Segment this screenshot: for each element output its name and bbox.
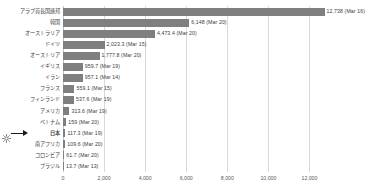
bar-value-label: 117.3 (Mar 19) <box>67 131 102 136</box>
y-axis-category-label: アメリカ <box>40 106 60 116</box>
x-axis-tick-labels: 02,0004,0006,0008,00010,00012,000 <box>63 175 330 187</box>
bar-value-label: 12,738 (Mar 16) <box>327 9 365 14</box>
bar-row: 4,473.4 (Mar 20) <box>63 29 197 39</box>
bar-row: 957.1 (Mar 14) <box>63 73 120 83</box>
y-axis-category-label: フィンランド <box>30 95 60 105</box>
y-axis-category-label: ドイツ <box>45 40 60 50</box>
right-arrow-icon <box>11 130 28 137</box>
bar <box>63 19 189 27</box>
bar-row: 959.7 (Mar 19) <box>63 62 120 72</box>
bar <box>63 85 74 93</box>
bar <box>63 118 66 126</box>
bar <box>63 41 105 49</box>
bar-value-label: 4,473.4 (Mar 20) <box>157 31 197 36</box>
bar-row: 2,023.3 (Mar 15) <box>63 40 147 50</box>
bar-row: 537.6 (Mar 19) <box>63 95 111 105</box>
bar-row: 159 (Mar 20) <box>63 117 99 127</box>
bar-row: 117.3 (Mar 19) <box>63 129 102 139</box>
x-axis-tick-label: 2,000 <box>98 175 111 181</box>
bar-row: 1,777.8 (Mar 20) <box>63 51 141 61</box>
bar <box>63 8 325 16</box>
bar-value-label: 537.6 (Mar 19) <box>76 97 111 102</box>
bar <box>63 129 65 137</box>
bar <box>63 63 83 71</box>
bar-value-label: 959.7 (Mar 19) <box>85 64 120 69</box>
bar <box>63 30 155 38</box>
y-axis-category-label: アラブ首長国連邦 <box>20 7 60 17</box>
x-axis-tick-label: 6,000 <box>180 175 193 181</box>
bar-value-label: 313.6 (Mar 19) <box>71 109 106 114</box>
y-axis-category-label: コロンビア <box>35 151 60 161</box>
bar-value-label: 957.1 (Mar 14) <box>85 75 120 80</box>
y-axis-category-label: 日本 <box>50 129 60 139</box>
y-axis-category-label: 韓国 <box>50 18 60 28</box>
bar <box>63 96 74 104</box>
bar-row: 313.6 (Mar 19) <box>63 106 107 116</box>
bar-row: 13.7 (Mar 13) <box>63 162 98 172</box>
bar <box>63 74 83 82</box>
japan-highlight-annotation <box>2 128 28 138</box>
bar-row: 6,148 (Mar 20) <box>63 18 227 28</box>
y-axis-category-label: オーストリア <box>30 51 60 61</box>
y-axis-category-label: オーストラリア <box>25 29 60 39</box>
bar-row: 559.1 (Mar 15) <box>63 84 112 94</box>
bar <box>63 107 69 115</box>
bar-value-label: 6,148 (Mar 20) <box>191 20 226 25</box>
bar-row: 61.7 (Mar 20) <box>63 151 99 161</box>
bar <box>63 140 65 148</box>
bar <box>63 162 64 170</box>
y-axis-category-label: イギリス <box>40 62 60 72</box>
x-axis-tick-label: 10,000 <box>260 175 276 181</box>
bar-series: 12,738 (Mar 16)6,148 (Mar 20)4,473.4 (Ma… <box>63 6 330 172</box>
sun-icon <box>2 129 11 138</box>
plot-area: 12,738 (Mar 16)6,148 (Mar 20)4,473.4 (Ma… <box>63 6 330 172</box>
y-axis-category-label: ブラジル <box>40 162 60 172</box>
bar-value-label: 109.6 (Mar 20) <box>67 142 102 147</box>
bar-value-label: 559.1 (Mar 15) <box>76 86 111 91</box>
y-axis-labels: アラブ首長国連邦韓国オーストラリアドイツオーストリアイギリスイランフランスフィン… <box>0 6 62 172</box>
bar-value-label: 2,023.3 (Mar 15) <box>107 42 147 47</box>
bar-value-label: 1,777.8 (Mar 20) <box>102 53 142 58</box>
y-axis-category-label: 南アフリカ <box>35 140 60 150</box>
x-axis-tick-label: 4,000 <box>139 175 152 181</box>
bar-value-label: 13.7 (Mar 13) <box>66 164 98 169</box>
bar-row: 109.6 (Mar 20) <box>63 140 103 150</box>
x-axis-tick-label: 8,000 <box>221 175 234 181</box>
x-axis-tick-label: 0 <box>62 175 65 181</box>
y-axis-category-label: イラン <box>45 73 60 83</box>
bar-value-label: 159 (Mar 20) <box>68 120 99 125</box>
bar-row: 12,738 (Mar 16) <box>63 7 365 17</box>
bar-value-label: 61.7 (Mar 20) <box>66 153 98 158</box>
bar <box>63 52 100 60</box>
y-axis-category-label: ベトナム <box>40 117 60 127</box>
bar <box>63 151 64 159</box>
x-axis-tick-label: 12,000 <box>302 175 318 181</box>
y-axis-category-label: フランス <box>40 84 60 94</box>
